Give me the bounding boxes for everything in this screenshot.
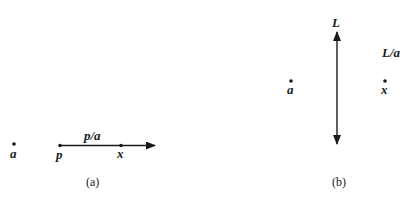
panel-a: a p x p/a (a) <box>10 128 155 189</box>
caption-b: (b) <box>332 175 346 189</box>
point-p-label: p <box>55 147 63 162</box>
reflection-label: L/a <box>381 45 401 60</box>
point-a-label-b: a <box>287 82 294 97</box>
point-a-label: a <box>10 146 17 161</box>
panel-b: a L L/a x (b) <box>287 15 401 189</box>
point-x-label: x <box>116 146 124 161</box>
line-L-label: L <box>331 15 340 30</box>
arrow-label: p/a <box>83 128 101 143</box>
point-x-label-b: x <box>380 82 388 97</box>
diagram-canvas: a p x p/a (a) a L L/a x (b) <box>0 0 418 203</box>
caption-a: (a) <box>86 175 99 189</box>
